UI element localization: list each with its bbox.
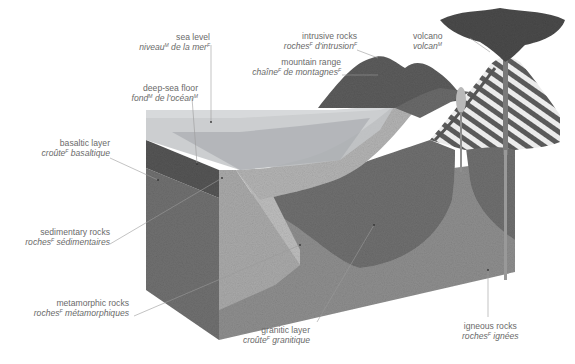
label-en: mountain range <box>252 57 341 67</box>
label-fr: croûteF granitique <box>243 335 310 345</box>
label-fr: niveauM de la merF <box>139 42 210 52</box>
label-en: sedimentary rocks <box>25 227 110 237</box>
label-granitic-layer: granitic layer croûteF granitique <box>243 325 310 345</box>
label-en: granitic layer <box>243 325 310 335</box>
label-fr: croûteF basaltique <box>41 148 110 158</box>
label-en: metamorphic rocks <box>34 298 129 308</box>
label-fr: chaîneF de montagnesF <box>252 67 341 77</box>
label-basaltic-layer: basaltic layer croûteF basaltique <box>41 138 110 158</box>
label-en: volcano <box>413 31 443 41</box>
label-volcano: volcano volcanM <box>413 31 443 51</box>
label-en: sea level <box>139 32 210 42</box>
label-fr: fondM de l'océanM <box>132 93 198 103</box>
label-sea-level: sea level niveauM de la merF <box>139 32 210 52</box>
label-igneous-rocks: igneous rocks rochesF ignées <box>462 321 519 341</box>
label-sedimentary-rocks: sedimentary rocks rochesF sédimentaires <box>25 227 110 247</box>
label-fr: rochesF métamorphiques <box>34 308 129 318</box>
label-deep-sea-floor: deep-sea floor fondM de l'océanM <box>132 83 198 103</box>
label-mountain-range: mountain range chaîneF de montagnesF <box>252 57 341 77</box>
label-fr: rochesF d'intrusionF <box>284 41 357 51</box>
label-en: intrusive rocks <box>284 31 357 41</box>
label-en: igneous rocks <box>462 321 519 331</box>
label-fr: rochesF sédimentaires <box>25 237 110 247</box>
label-intrusive-rocks: intrusive rocks rochesF d'intrusionF <box>284 31 357 51</box>
label-fr: volcanM <box>413 41 443 51</box>
block-left-face <box>146 140 219 340</box>
label-metamorphic-rocks: metamorphic rocks rochesF métamorphiques <box>34 298 129 318</box>
label-fr: rochesF ignées <box>462 331 519 341</box>
label-en: deep-sea floor <box>132 83 198 93</box>
label-en: basaltic layer <box>41 138 110 148</box>
